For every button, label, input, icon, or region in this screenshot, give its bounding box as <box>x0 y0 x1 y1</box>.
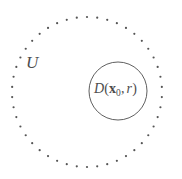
boundary-dot <box>56 22 58 24</box>
boundary-dot <box>25 134 27 136</box>
boundary-dot <box>106 163 108 165</box>
boundary-dot <box>86 16 88 18</box>
boundary-dot <box>11 86 13 88</box>
boundary-dot <box>147 48 149 50</box>
boundary-dot <box>147 134 149 136</box>
boundary-dot <box>141 142 143 144</box>
figure-canvas: U D(x0,r) <box>0 0 182 179</box>
boundary-dot <box>159 76 161 78</box>
boundary-dot <box>19 56 21 58</box>
boundary-dot <box>39 149 41 151</box>
boundary-dot <box>106 19 108 21</box>
boundary-dot <box>161 96 163 98</box>
boundary-dot <box>47 155 49 157</box>
boundary-dot <box>15 116 17 118</box>
boundary-dot <box>39 33 41 35</box>
boundary-dot <box>66 163 68 165</box>
disk-label-close-paren: ) <box>132 81 137 96</box>
boundary-dot <box>12 106 14 108</box>
disk-label-comma: , <box>121 81 125 96</box>
boundary-dot <box>125 27 127 29</box>
boundary-dot <box>25 48 27 50</box>
boundary-dot <box>133 149 135 151</box>
disk-label-D: D(x0,r) <box>94 82 137 98</box>
boundary-dot <box>152 125 154 127</box>
boundary-dot <box>133 33 135 35</box>
boundary-dot <box>159 106 161 108</box>
open-set-boundary-dotted <box>11 16 163 168</box>
boundary-dot <box>152 56 154 58</box>
boundary-dot <box>161 86 163 88</box>
boundary-dot <box>125 155 127 157</box>
boundary-dot <box>56 160 58 162</box>
boundary-dot <box>76 17 78 19</box>
boundary-dot <box>31 40 33 42</box>
boundary-dot <box>141 40 143 42</box>
boundary-dot <box>96 165 98 167</box>
boundary-dot <box>15 66 17 68</box>
boundary-dot <box>96 17 98 19</box>
boundary-dot <box>12 76 14 78</box>
disk-label-D-letter: D <box>94 81 104 96</box>
boundary-dot <box>86 166 88 168</box>
open-set-label-U: U <box>26 54 38 71</box>
boundary-dot <box>19 125 21 127</box>
boundary-dot <box>76 165 78 167</box>
boundary-dot <box>116 160 118 162</box>
boundary-dot <box>116 22 118 24</box>
boundary-dot <box>66 19 68 21</box>
boundary-dot <box>47 27 49 29</box>
boundary-dot <box>31 142 33 144</box>
boundary-dot <box>157 116 159 118</box>
boundary-dot <box>157 66 159 68</box>
boundary-dot <box>11 96 13 98</box>
figure-svg <box>0 0 182 179</box>
